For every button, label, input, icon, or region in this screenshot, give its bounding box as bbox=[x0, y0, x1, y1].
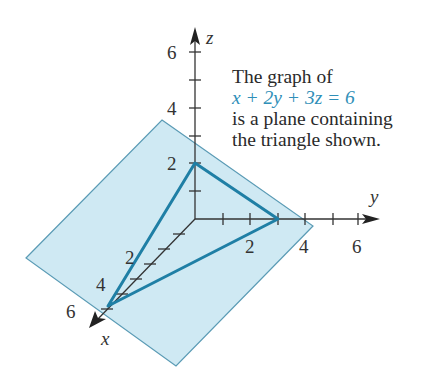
caption-line-1: The graph of bbox=[232, 66, 393, 87]
caption-equation: x + 2y + 3z = 6 bbox=[232, 87, 393, 108]
caption-line-4: the triangle shown. bbox=[232, 129, 393, 150]
z-axis bbox=[189, 36, 201, 219]
x-tick-6: 6 bbox=[66, 301, 76, 322]
caption-line-3: is a plane containing bbox=[232, 108, 393, 129]
x-axis-label: x bbox=[100, 328, 110, 349]
y-tick-2: 2 bbox=[245, 236, 255, 257]
y-axis-label: y bbox=[368, 186, 379, 207]
x-tick-4: 4 bbox=[96, 274, 106, 295]
x-tick-2: 2 bbox=[125, 247, 135, 268]
z-tick-6: 6 bbox=[167, 42, 177, 63]
z-axis-label: z bbox=[205, 27, 214, 48]
caption: The graph of x + 2y + 3z = 6 is a plane … bbox=[232, 66, 393, 150]
y-tick-4: 4 bbox=[299, 236, 309, 257]
z-tick-4: 4 bbox=[167, 98, 177, 119]
y-tick-6: 6 bbox=[352, 236, 362, 257]
z-tick-2: 2 bbox=[167, 153, 177, 174]
3d-plane-diagram: z y x 2 4 6 2 4 6 2 4 6 bbox=[0, 0, 438, 378]
